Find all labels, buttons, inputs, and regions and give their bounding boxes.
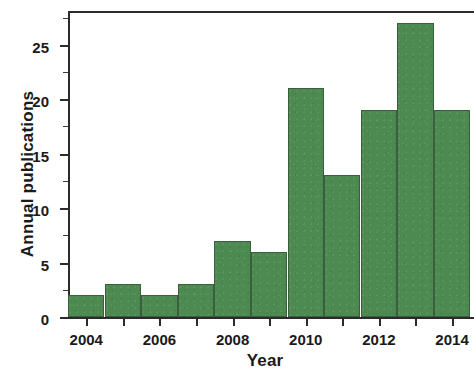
x-tick-2013: [415, 317, 417, 326]
x-tick-label-2004: 2004: [70, 331, 103, 348]
bar-2007: [178, 284, 214, 317]
bar-2011: [324, 175, 360, 317]
x-tick-2012: [379, 317, 381, 326]
x-tick-label-2014: 2014: [435, 331, 468, 348]
bar-2010: [288, 88, 324, 317]
x-tick-2007: [196, 317, 198, 326]
x-axis-title: Year: [205, 351, 325, 371]
x-tick-label-2006: 2006: [143, 331, 176, 348]
y-tick-label-25: 25: [32, 38, 49, 55]
plot-area: 0510152025 200420062008201020122014: [68, 11, 474, 317]
bar-2004: [68, 295, 104, 317]
bar-chart-figure: Annual publications Year 0510152025 2004…: [0, 0, 474, 375]
y-tick-label-5: 5: [41, 256, 49, 273]
x-tick-label-2010: 2010: [289, 331, 322, 348]
y-tick-label-20: 20: [32, 93, 49, 110]
bar-2013: [397, 23, 433, 317]
y-tick-15: 15: [60, 154, 68, 156]
y-tick-label-15: 15: [32, 147, 49, 164]
y-axis-title: Annual publications: [18, 54, 38, 294]
bar-2008: [214, 241, 250, 317]
bars-layer: [68, 11, 474, 317]
x-tick-2004: [86, 317, 88, 326]
x-tick-2005: [123, 317, 125, 326]
bar-2014: [434, 110, 470, 317]
x-tick-2014: [452, 317, 454, 326]
y-tick-label-10: 10: [32, 202, 49, 219]
y-tick-0: 0: [60, 317, 68, 319]
x-tick-2009: [269, 317, 271, 326]
bar-2005: [105, 284, 141, 317]
bar-2006: [141, 295, 177, 317]
y-tick-10: 10: [60, 208, 68, 210]
y-tick-5: 5: [60, 263, 68, 265]
y-tick-25: 25: [60, 45, 68, 47]
y-tick-label-0: 0: [41, 311, 49, 328]
y-tick-20: 20: [60, 99, 68, 101]
x-tick-2010: [306, 317, 308, 326]
x-tick-2008: [233, 317, 235, 326]
x-tick-2006: [159, 317, 161, 326]
x-tick-label-2012: 2012: [362, 331, 395, 348]
bar-2009: [251, 252, 287, 317]
x-tick-label-2008: 2008: [216, 331, 249, 348]
x-tick-2011: [342, 317, 344, 326]
bar-2012: [361, 110, 397, 317]
